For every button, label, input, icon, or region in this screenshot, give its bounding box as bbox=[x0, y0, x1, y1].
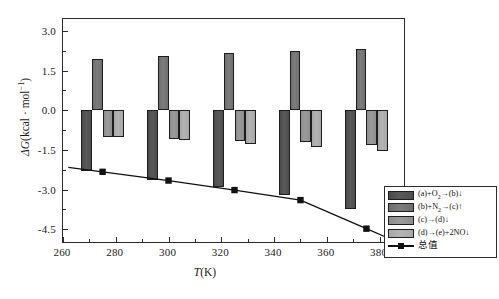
x-tick-mark bbox=[274, 237, 275, 242]
x-tick-minor bbox=[300, 239, 301, 242]
legend-item[interactable]: (a)+O2→(b)↓ bbox=[388, 189, 493, 202]
x-tick-mark bbox=[63, 237, 64, 242]
x-tick-mark bbox=[327, 237, 328, 242]
x-tick-minor bbox=[89, 239, 90, 242]
y-tick-mark bbox=[63, 110, 68, 111]
total-value-marker bbox=[297, 197, 303, 203]
legend-swatch bbox=[388, 229, 414, 238]
x-tick-minor bbox=[248, 239, 249, 242]
plot-inner bbox=[63, 19, 404, 242]
y-axis-title-exponent: −1 bbox=[17, 82, 26, 91]
total-value-polyline bbox=[103, 172, 367, 229]
total-value-leading-stub bbox=[68, 167, 102, 172]
legend-item[interactable]: (c)→(d)↓ bbox=[388, 214, 493, 227]
y-tick-minor bbox=[63, 209, 66, 210]
legend-label: (c)→(d)↓ bbox=[418, 216, 449, 224]
x-tick-minor bbox=[353, 239, 354, 242]
x-tick-minor bbox=[142, 239, 143, 242]
y-axis-title-close: ) bbox=[19, 78, 31, 82]
x-tick-label: 320 bbox=[212, 246, 229, 258]
total-value-marker bbox=[231, 187, 237, 193]
y-tick-label: -4.5 bbox=[38, 223, 63, 235]
y-tick-mark bbox=[63, 190, 68, 191]
x-tick-mark bbox=[380, 237, 381, 242]
y-tick-label: -1.5 bbox=[38, 144, 63, 156]
y-tick-label: 0.0 bbox=[42, 104, 63, 116]
total-value-line bbox=[63, 19, 404, 242]
y-tick-minor bbox=[63, 170, 66, 171]
legend-line-marker-icon bbox=[388, 241, 414, 250]
plot-area: 3.01.50.0-1.5-3.0-4.5 bbox=[62, 18, 405, 243]
y-tick-mark bbox=[63, 31, 68, 32]
chart-figure: 3.01.50.0-1.5-3.0-4.5 260280300320340360… bbox=[0, 0, 499, 299]
x-axis-title-unit: (K) bbox=[200, 266, 216, 278]
x-tick-mark bbox=[221, 237, 222, 242]
y-tick-label: 3.0 bbox=[42, 25, 63, 37]
chart-legend: (a)+O2→(b)↓(b)+N2→(c)↑(c)→(d)↓(d)→(e)+2N… bbox=[384, 186, 497, 258]
x-tick-label: 340 bbox=[265, 246, 282, 258]
x-tick-label: 360 bbox=[317, 246, 334, 258]
y-tick-mark bbox=[63, 229, 68, 230]
legend-label: (a)+O2→(b)↓ bbox=[418, 190, 462, 201]
total-value-marker bbox=[165, 177, 171, 183]
x-tick-minor bbox=[195, 239, 196, 242]
legend-swatch bbox=[388, 191, 414, 200]
y-axis-title-symbol: ΔG bbox=[19, 141, 31, 156]
total-value-marker bbox=[99, 169, 105, 175]
x-tick-label: 260 bbox=[53, 246, 70, 258]
legend-label: (d)→(e)+2NO↓ bbox=[418, 229, 469, 237]
x-tick-mark bbox=[116, 237, 117, 242]
legend-item[interactable]: (b)+N2→(c)↑ bbox=[388, 202, 493, 215]
legend-item[interactable]: (d)→(e)+2NO↓ bbox=[388, 227, 493, 240]
legend-item[interactable]: 总值 bbox=[388, 239, 493, 252]
y-tick-minor bbox=[63, 90, 66, 91]
y-tick-minor bbox=[63, 51, 66, 52]
y-tick-mark bbox=[63, 150, 68, 151]
x-tick-label: 280 bbox=[106, 246, 123, 258]
x-axis-title: T(K) bbox=[0, 266, 410, 278]
y-axis-title: ΔG(kcal · mol−1) bbox=[17, 17, 31, 217]
y-axis-title-body: (kcal · mol bbox=[19, 90, 31, 140]
x-tick-label: 300 bbox=[159, 246, 176, 258]
legend-label: (b)+N2→(c)↑ bbox=[418, 203, 462, 214]
y-tick-label: -3.0 bbox=[38, 184, 63, 196]
total-value-marker bbox=[363, 225, 369, 231]
legend-swatch bbox=[388, 216, 414, 225]
y-tick-minor bbox=[63, 130, 66, 131]
x-tick-mark bbox=[169, 237, 170, 242]
legend-label: 总值 bbox=[418, 241, 438, 251]
y-tick-label: 1.5 bbox=[42, 65, 63, 77]
y-tick-mark bbox=[63, 71, 68, 72]
legend-swatch bbox=[388, 203, 414, 212]
